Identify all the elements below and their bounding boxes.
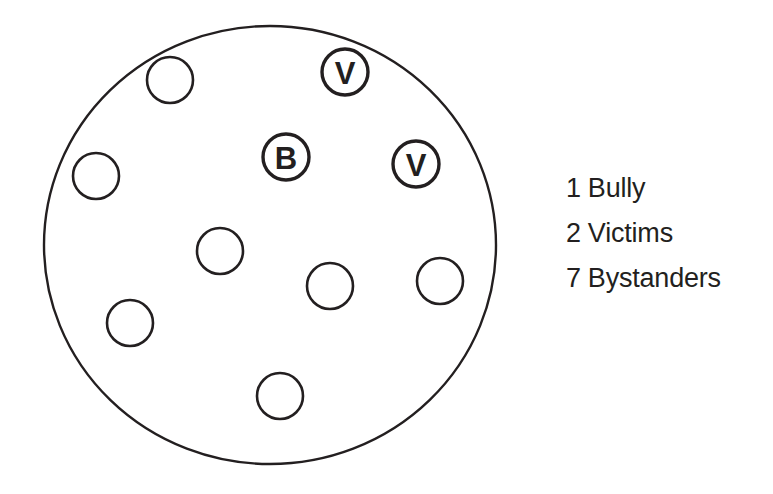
member-label-bully-1: B xyxy=(275,141,297,176)
member-bystander-2[interactable] xyxy=(73,153,119,199)
member-circle-bystander[interactable] xyxy=(417,258,463,304)
member-circle-bystander[interactable] xyxy=(107,300,153,346)
member-bully-1[interactable]: B xyxy=(263,134,309,180)
member-bystander-7[interactable] xyxy=(257,373,303,419)
member-victim-1[interactable]: V xyxy=(322,49,368,95)
legend-count: 1 xyxy=(566,173,581,203)
legend-count: 2 xyxy=(566,218,581,248)
legend-row-bully: 1Bully xyxy=(566,166,766,211)
legend-row-victims: 2Victims xyxy=(566,211,766,256)
legend: 1Bully2Victims7Bystanders xyxy=(566,166,766,301)
member-bystander-4[interactable] xyxy=(307,263,353,309)
legend-label: Bully xyxy=(588,173,646,203)
member-victim-2[interactable]: V xyxy=(393,141,439,187)
member-circle-bystander[interactable] xyxy=(257,373,303,419)
member-bystander-3[interactable] xyxy=(197,228,243,274)
member-circle-bystander[interactable] xyxy=(73,153,119,199)
legend-label: Victims xyxy=(588,218,673,248)
member-bystander-1[interactable] xyxy=(147,57,193,103)
member-circle-bystander[interactable] xyxy=(147,57,193,103)
diagram-canvas: VBV 1Bully2Victims7Bystanders xyxy=(0,0,773,494)
member-circle-bystander[interactable] xyxy=(197,228,243,274)
legend-row-bystanders: 7Bystanders xyxy=(566,256,766,301)
member-bystander-6[interactable] xyxy=(107,300,153,346)
member-circle-bystander[interactable] xyxy=(307,263,353,309)
member-label-victim-2: V xyxy=(406,148,427,183)
member-label-victim-1: V xyxy=(335,56,356,91)
legend-count: 7 xyxy=(566,263,581,293)
legend-label: Bystanders xyxy=(588,263,721,293)
member-bystander-5[interactable] xyxy=(417,258,463,304)
